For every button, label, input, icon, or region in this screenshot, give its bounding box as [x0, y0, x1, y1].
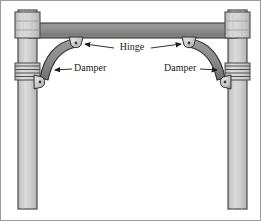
- hinge-leader-right: [151, 44, 181, 48]
- left-beam-column-joint: [15, 12, 40, 38]
- hinge-label: Hinge: [120, 41, 145, 52]
- hinge-label-group: Hinge: [85, 41, 181, 52]
- damper-left-label-group: Damper: [55, 62, 107, 73]
- right-column: [228, 10, 247, 209]
- damper-left-label: Damper: [74, 62, 107, 73]
- diagram-canvas: Hinge Damper Damper: [1, 1, 261, 221]
- damper-right-label-group: Damper: [164, 62, 217, 73]
- damper-right-label: Damper: [164, 62, 197, 73]
- hinge-leader-left: [85, 44, 114, 48]
- damper-left-leader: [55, 69, 72, 70]
- right-beam-column-joint: [225, 12, 250, 38]
- structural-diagram: Hinge Damper Damper: [0, 0, 261, 221]
- left-column: [18, 10, 37, 209]
- top-beam: [29, 23, 237, 38]
